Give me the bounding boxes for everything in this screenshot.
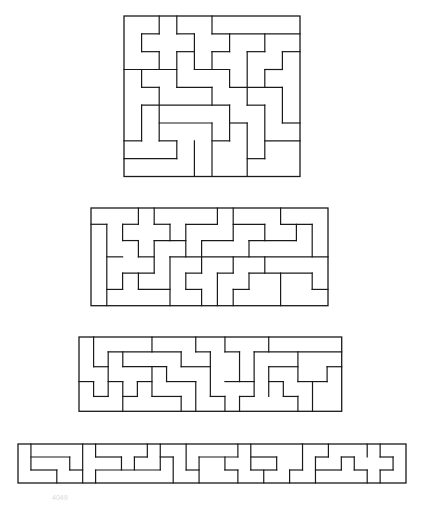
tiling-15x6-grid [91, 208, 328, 306]
tiling-18x5 [79, 337, 342, 411]
tiling-10x9-grid [124, 16, 300, 177]
tiling-30x3-grid [18, 444, 406, 483]
tiling-10x9 [124, 16, 300, 177]
tiling-border [18, 444, 406, 483]
tiling-15x6 [91, 208, 328, 306]
tiling-18x5-grid [79, 337, 342, 411]
figure-caption: 4049 [52, 494, 68, 501]
tiling-30x3 [18, 444, 406, 483]
